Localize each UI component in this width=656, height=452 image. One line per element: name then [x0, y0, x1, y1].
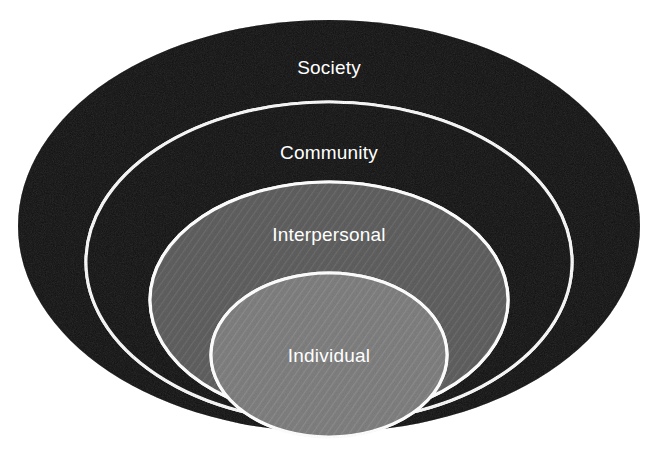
nested-ellipse-canvas: Society Community Interpersonal Individu…: [0, 0, 656, 452]
label-interpersonal: Interpersonal: [272, 224, 386, 245]
label-community: Community: [280, 142, 378, 163]
label-individual: Individual: [288, 345, 370, 366]
label-society: Society: [297, 57, 361, 78]
socio-ecological-model-diagram: Society Community Interpersonal Individu…: [0, 0, 656, 452]
